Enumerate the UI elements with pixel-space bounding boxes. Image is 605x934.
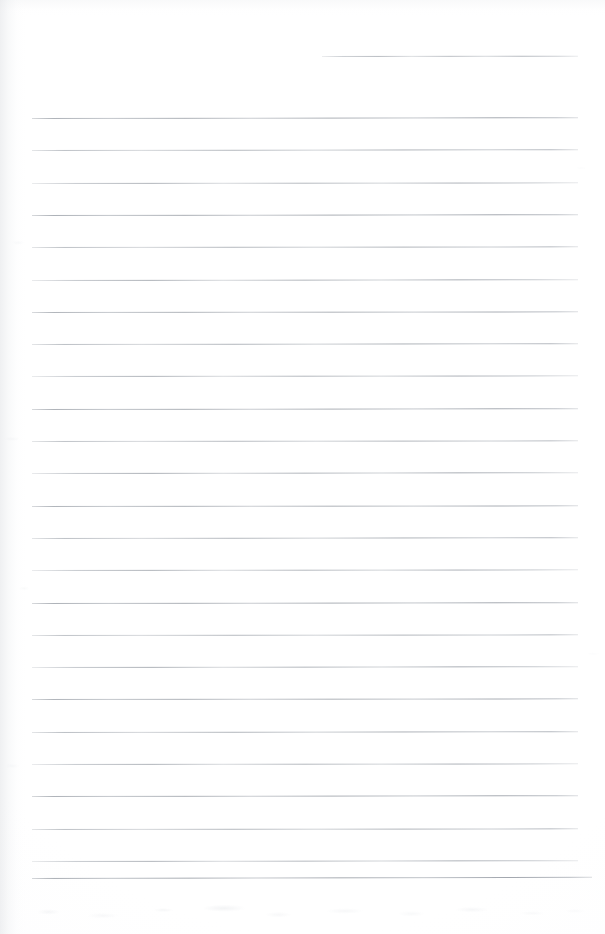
scanned-page (0, 0, 605, 934)
paper-background (0, 0, 605, 934)
